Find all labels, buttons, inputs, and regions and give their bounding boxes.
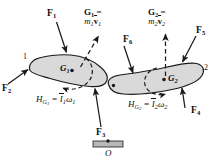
angular-momentum-label-HG2: HG2 = I2ω2 [128, 100, 167, 109]
origin-label-O: O [105, 149, 112, 158]
force-F6-arrow [124, 46, 133, 73]
body-number-1: 1 [23, 53, 27, 61]
angular-momentum-label-HG1: HG1 = I1ω1 [36, 95, 75, 104]
force-label-F2: F2 [2, 84, 11, 94]
force-label-F1: F1 [47, 9, 56, 19]
ground-reference-mark [93, 139, 123, 147]
force-F5-arrow [183, 36, 197, 62]
force-F3-arrow [95, 89, 101, 128]
mass-center-1-marker [70, 69, 74, 73]
body-number-2: 2 [204, 64, 208, 72]
force-label-F4: F4 [191, 106, 200, 116]
force-label-F6: F6 [123, 35, 132, 45]
pin-joint [112, 84, 115, 87]
mass-center-label-G1: G1 [60, 64, 70, 73]
diagram-canvas [0, 0, 221, 166]
force-label-F3: F3 [96, 128, 105, 138]
free-body-diagram: F1 F2 F3 F4 F5 F6 G1 = m1v1 G2 = m2v2 [0, 0, 221, 166]
force-F4-arrow [182, 88, 185, 108]
mass-center-label-G2: G2 [168, 74, 178, 83]
mass-center-2-marker [162, 78, 166, 82]
force-F1-arrow [57, 22, 67, 53]
force-label-F5: F5 [196, 26, 205, 36]
momentum-label-G1: G1 = m1v1 [84, 8, 102, 26]
momentum-label-G2: G2 = m2v2 [148, 8, 166, 26]
force-F2-arrow [8, 70, 28, 85]
